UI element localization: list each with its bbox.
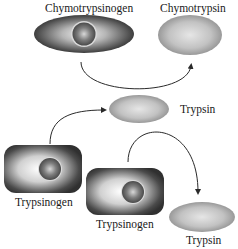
label-chymotrypsin: Chymotrypsin — [160, 3, 226, 15]
chymotrypsin-shape — [158, 15, 222, 55]
arrow-chymotrypsinogen-to-chymotrypsin — [81, 62, 191, 89]
arrow-trypsinogen-to-trypsin — [50, 110, 104, 144]
label-trypsin-middle: Trypsin — [180, 104, 215, 116]
label-chymotrypsinogen: Chymotrypsinogen — [45, 3, 133, 15]
chymotrypsinogen-shape — [34, 15, 134, 53]
trypsinogen-right-shape — [86, 168, 164, 215]
label-trypsinogen-right: Trypsinogen — [96, 219, 154, 231]
trypsin-middle-shape — [109, 95, 169, 123]
label-trypsin-bottom: Trypsin — [186, 235, 221, 247]
activation-diagram: Chymotrypsinogen Chymotrypsin Trypsin Tr… — [0, 0, 238, 249]
trypsinogen-left-shape — [4, 145, 82, 193]
trypsin-bottom-shape — [169, 202, 235, 232]
label-trypsinogen-left: Trypsinogen — [15, 197, 73, 209]
